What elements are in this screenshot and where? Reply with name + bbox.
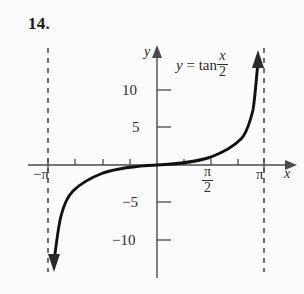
graph-svg (0, 0, 304, 294)
curve-arrow-down (48, 254, 60, 272)
equation-label: y = tanx2 (176, 50, 228, 81)
y-tick-label-5: 5 (132, 119, 140, 136)
x-axis-label: x (284, 166, 290, 182)
pi-over-2-numerator: π (202, 165, 213, 179)
pi-over-2-fraction: π2 (202, 165, 213, 196)
x-tick-label-pi: π (256, 166, 264, 183)
equation-equals: = (186, 57, 194, 73)
equation-fraction-numerator: x (217, 49, 228, 63)
equation-fraction-denominator: 2 (217, 65, 228, 79)
y-tick-label-10: 10 (122, 82, 137, 99)
pi-over-2-denominator: 2 (202, 181, 213, 195)
curve-arrow-up (252, 50, 264, 68)
y-tick-label-minus-10: −10 (112, 232, 135, 249)
y-axis-arrow (152, 45, 162, 58)
equation-fraction: x2 (217, 49, 228, 80)
equation-function: tan (199, 57, 217, 73)
figure-container: 14. y = tanx2 (0, 0, 304, 294)
y-axis-label: y (144, 44, 150, 60)
tangent-curve (54, 62, 258, 262)
y-tick-label-minus-5: −5 (122, 194, 138, 211)
x-tick-label-pi-over-2: π2 (202, 166, 213, 197)
equation-lhs: y (176, 57, 183, 73)
x-tick-label-minus-pi: −π (33, 166, 49, 183)
